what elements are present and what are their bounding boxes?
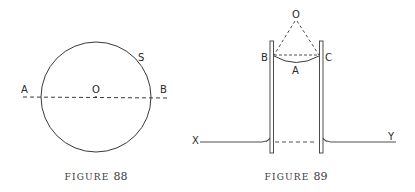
label-o: O (292, 9, 300, 20)
radius-oc-dashed (297, 21, 319, 55)
label-x: X (192, 135, 199, 146)
label-b: B (261, 52, 268, 63)
caption-figure-89: FIGURE89 (264, 170, 327, 183)
label-c: C (325, 52, 332, 63)
label-b: B (160, 84, 167, 95)
figure-88: A O B S FIGURE88 (21, 42, 168, 183)
tube-b (270, 41, 274, 153)
water-line-right (323, 138, 396, 142)
label-a: A (21, 84, 28, 95)
label-o: O (92, 84, 100, 95)
label-a: A (292, 65, 299, 76)
radius-ob-dashed (274, 21, 295, 55)
meniscus-arc (274, 56, 319, 63)
figure-89: O B C A X Y FIGURE89 (192, 9, 396, 183)
tube-c (320, 41, 324, 153)
center-point (95, 96, 97, 98)
label-y: Y (387, 131, 395, 142)
label-s: S (138, 52, 144, 63)
diagram-canvas: A O B S FIGURE88 O B C A X Y FIGURE89 (0, 0, 415, 192)
caption-figure-88: FIGURE88 (64, 170, 127, 183)
water-line-left (200, 138, 270, 142)
